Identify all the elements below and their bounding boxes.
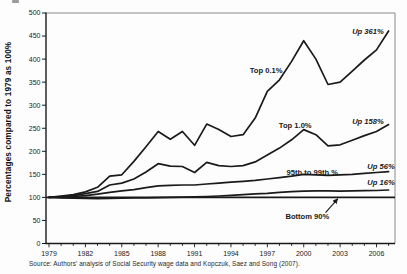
x-tick-label: 2003 (332, 250, 348, 257)
y-tick-label: 100 (29, 194, 41, 201)
annotation-up-16: Up 16% (367, 178, 395, 187)
y-tick-label: 500 (29, 9, 41, 16)
x-tick-label: 1988 (150, 250, 166, 257)
annotation-up-158: Up 158% (352, 117, 384, 126)
wage-growth-figure: 0501001502002503003504004505001979198219… (0, 0, 407, 274)
x-tick-label: 1997 (260, 250, 276, 257)
annotation-top-1-0: Top 1.0% (279, 121, 312, 130)
x-tick-label: 2000 (296, 250, 312, 257)
y-tick-label: 250 (29, 125, 41, 132)
y-tick-label: 0 (37, 240, 41, 247)
annotation-95th-to-99th: 95th to 99th % (286, 168, 338, 177)
y-tick-label: 400 (29, 56, 41, 63)
y-tick-label: 200 (29, 148, 41, 155)
x-tick-label: 2006 (369, 250, 385, 257)
annotation-up-361: Up 361% (352, 27, 384, 36)
annotation-up-56: Up 56% (367, 162, 395, 171)
y-tick-label: 300 (29, 102, 41, 109)
scan-artifact (12, 0, 19, 3)
wage-growth-chart: 0501001502002503003504004505001979198219… (0, 0, 407, 258)
x-tick-label: 1991 (187, 250, 203, 257)
y-tick-label: 450 (29, 32, 41, 39)
series-line-top-1-0 (49, 125, 389, 198)
x-tick-label: 1994 (223, 250, 239, 257)
x-tick-label: 1982 (78, 250, 94, 257)
y-tick-label: 150 (29, 171, 41, 178)
y-axis-title: Percentages compared to 1979 as 100% (4, 41, 13, 202)
x-tick-label: 1979 (41, 250, 57, 257)
y-tick-label: 350 (29, 79, 41, 86)
y-tick-label: 50 (33, 217, 41, 224)
source-note: Source: Authors' analysis of Social Secu… (29, 260, 300, 267)
annotation-arrow-bottom-90 (326, 199, 338, 213)
annotation-bottom-90: Bottom 90% (285, 212, 329, 221)
annotation-top-0-1: Top 0.1% (250, 66, 283, 75)
x-tick-label: 1985 (114, 250, 130, 257)
